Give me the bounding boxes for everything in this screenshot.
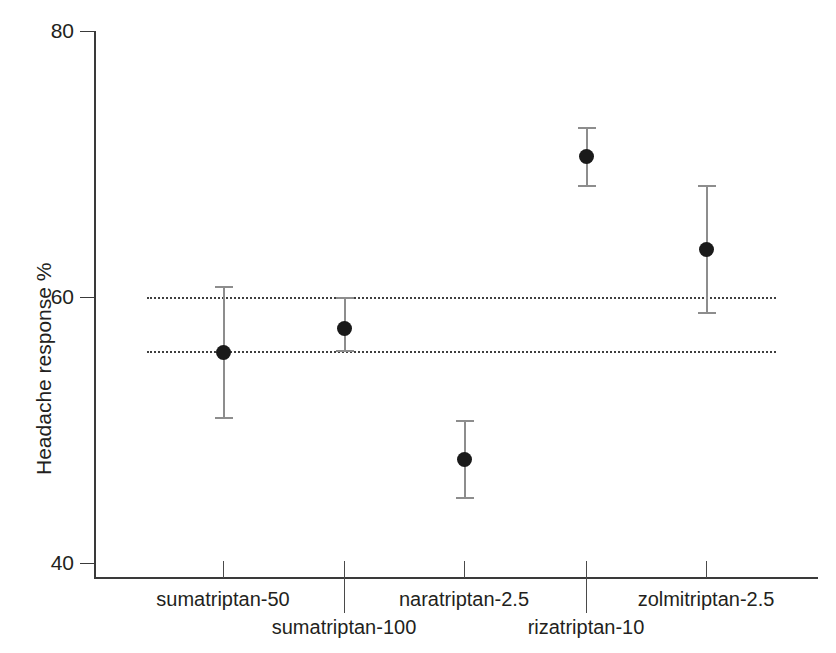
upper-reference-line — [147, 297, 776, 299]
errorbar-cap-lower — [215, 417, 233, 419]
y-tick-mark-80 — [80, 31, 95, 32]
y-axis-title: Headache response % — [32, 263, 56, 475]
x-tick-mark-sumatriptan-50 — [223, 561, 224, 578]
y-tick-label-80: 80 — [18, 19, 74, 43]
y-tick-label-40: 40 — [18, 551, 74, 575]
errorbar-cap-upper — [215, 286, 233, 288]
x-category-label-zolmitriptan-2.5: zolmitriptan-2.5 — [556, 588, 836, 611]
data-point-marker — [337, 321, 352, 336]
data-point-marker — [457, 452, 472, 467]
x-tick-mark-naratriptan-2.5 — [464, 561, 465, 578]
errorbar-cap-upper — [456, 420, 474, 422]
x-tick-mark-zolmitriptan-2.5 — [706, 561, 707, 578]
errorbar-cap-upper — [336, 297, 354, 299]
data-point-marker — [579, 149, 594, 164]
errorbar-cap-lower — [698, 312, 716, 314]
errorbar-cap-upper — [578, 127, 596, 129]
errorbar-cap-lower — [578, 185, 596, 187]
lower-reference-line — [147, 351, 776, 353]
errorbar-cap-upper — [698, 185, 716, 187]
y-tick-mark-40 — [80, 563, 95, 564]
data-point-marker — [699, 242, 714, 257]
errorbar-cap-lower — [336, 350, 354, 352]
data-point-marker — [216, 345, 231, 360]
error-bar-chart: 80 60 40 Headache response % sumatriptan… — [0, 0, 836, 653]
y-axis-line — [94, 31, 96, 578]
y-tick-mark-60 — [80, 297, 95, 298]
x-category-label-rizatriptan-10: rizatriptan-10 — [436, 616, 736, 639]
errorbar-cap-lower — [456, 497, 474, 499]
x-axis-line — [94, 577, 818, 579]
